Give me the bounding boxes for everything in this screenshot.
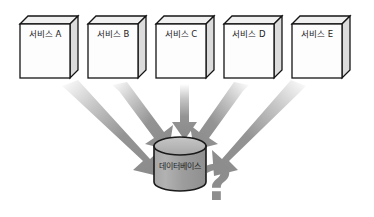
service-label: 서비스 E [301, 29, 333, 39]
diagram-canvas: ? 데이터베이스 서비스 A 서비스 B [0, 0, 374, 217]
service-box-group: 서비스 A 서비스 B 서비스 C 서비스 D [20, 16, 350, 78]
box-top-face [20, 16, 78, 24]
box-top-face [88, 16, 146, 24]
database-label: 데이터베이스 [159, 161, 201, 171]
box-side-face [138, 16, 146, 78]
service-box-b[interactable]: 서비스 B [88, 16, 146, 78]
box-side-face [342, 16, 350, 78]
service-box-c[interactable]: 서비스 C [156, 16, 214, 78]
database-node: 데이터베이스 [154, 137, 206, 191]
service-box-a[interactable]: 서비스 A [20, 16, 78, 78]
box-side-face [274, 16, 282, 78]
architecture-diagram: ? 데이터베이스 서비스 A 서비스 B [0, 0, 374, 217]
service-label: 서비스 C [165, 29, 198, 39]
arrow-shape [62, 80, 160, 176]
question-mark: ? [203, 154, 232, 212]
database-cylinder-top [154, 137, 206, 155]
service-label: 서비스 D [232, 29, 266, 39]
box-side-face [70, 16, 78, 78]
box-top-face [224, 16, 282, 24]
service-box-e[interactable]: 서비스 E [292, 16, 350, 78]
arrow-service-a [62, 80, 160, 176]
box-top-face [156, 16, 214, 24]
service-box-d[interactable]: 서비스 D [224, 16, 282, 78]
service-label: 서비스 A [29, 29, 62, 39]
box-top-face [292, 16, 350, 24]
service-label: 서비스 B [97, 29, 130, 39]
box-side-face [206, 16, 214, 78]
